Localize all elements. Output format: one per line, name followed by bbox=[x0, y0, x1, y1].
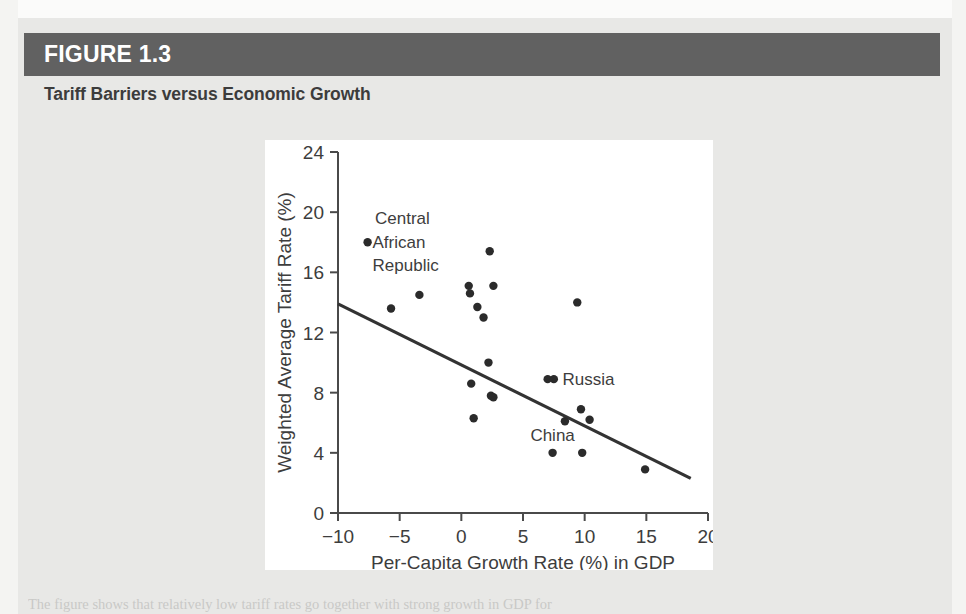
x-axis-tick-label: −10 bbox=[322, 526, 354, 547]
x-axis-tick-label: 10 bbox=[574, 526, 595, 547]
data-point bbox=[550, 375, 558, 383]
data-point bbox=[486, 247, 494, 255]
data-point bbox=[473, 303, 481, 311]
data-point bbox=[577, 405, 585, 413]
data-point bbox=[585, 416, 593, 424]
data-point bbox=[467, 379, 475, 387]
y-axis-tick-label: 4 bbox=[313, 443, 324, 464]
y-axis-title: Weighted Average Tariff Rate (%) bbox=[274, 192, 295, 473]
x-axis-tick-label: 20 bbox=[697, 526, 713, 547]
data-point bbox=[548, 449, 556, 457]
data-point bbox=[484, 358, 492, 366]
point-annotation: Russia bbox=[562, 370, 615, 389]
data-point bbox=[363, 238, 371, 246]
data-point bbox=[561, 417, 569, 425]
data-point bbox=[578, 449, 586, 457]
data-point bbox=[641, 465, 649, 473]
page-edge-top bbox=[0, 0, 966, 18]
y-axis-tick-label: 8 bbox=[313, 383, 324, 404]
trendline bbox=[338, 304, 691, 478]
figure-container: FIGURE 1.3 Tariff Barriers versus Econom… bbox=[0, 0, 966, 614]
figure-caption: The figure shows that relatively low tar… bbox=[28, 596, 938, 614]
page-edge-right bbox=[952, 0, 966, 614]
x-axis-tick-label: 5 bbox=[518, 526, 529, 547]
trend-line-segment bbox=[338, 304, 691, 478]
point-annotation: Central bbox=[375, 209, 430, 228]
axes-group: 04812162024−10−505101520 bbox=[303, 142, 713, 547]
data-point bbox=[465, 282, 473, 290]
point-annotation: Republic bbox=[373, 256, 440, 275]
data-point bbox=[479, 313, 487, 321]
x-axis-tick-label: 15 bbox=[636, 526, 657, 547]
data-point bbox=[466, 289, 474, 297]
y-axis-tick-label: 24 bbox=[303, 142, 325, 163]
y-axis-tick-label: 20 bbox=[303, 202, 324, 223]
data-point bbox=[489, 393, 497, 401]
data-point bbox=[415, 291, 423, 299]
y-axis-tick-label: 16 bbox=[303, 262, 324, 283]
point-annotation: African bbox=[373, 233, 426, 252]
figure-number-label: FIGURE 1.3 bbox=[44, 41, 171, 68]
chart-panel: 04812162024−10−505101520 CentralAfricanR… bbox=[265, 140, 713, 570]
x-axis-tick-label: 0 bbox=[456, 526, 467, 547]
y-axis-tick-label: 0 bbox=[313, 503, 324, 524]
y-axis-tick-label: 12 bbox=[303, 323, 324, 344]
scatter-plot: 04812162024−10−505101520 CentralAfricanR… bbox=[265, 140, 713, 570]
data-point bbox=[387, 304, 395, 312]
x-axis-tick-label: −5 bbox=[389, 526, 411, 547]
point-annotation: China bbox=[530, 426, 575, 445]
data-point bbox=[573, 298, 581, 306]
x-axis-title: Per-Capita Growth Rate (%) in GDP bbox=[371, 552, 675, 570]
data-point bbox=[489, 282, 497, 290]
figure-header-band: FIGURE 1.3 bbox=[24, 33, 940, 76]
figure-title: Tariff Barriers versus Economic Growth bbox=[44, 84, 371, 105]
data-point bbox=[469, 414, 477, 422]
page-edge-left bbox=[0, 0, 18, 614]
